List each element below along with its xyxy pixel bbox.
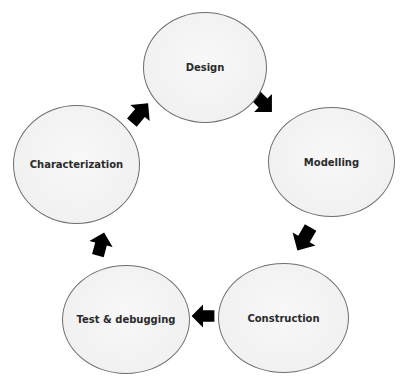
node-modelling: Modelling [268,107,395,217]
node-characterization: Characterization [13,105,140,224]
node-label: Test & debugging [77,314,176,325]
node-label: Characterization [30,159,124,170]
arrow-test-to-characterization-icon [86,229,115,258]
process-cycle-diagram: Design Modelling Construction Test & deb… [0,0,407,385]
arrow-characterization-to-design-icon [122,95,158,131]
arrow-construction-to-test-icon [192,305,215,328]
node-label: Construction [247,313,319,324]
node-design: Design [143,12,267,123]
node-construction: Construction [218,263,349,373]
node-label: Modelling [304,157,359,168]
node-label: Design [186,62,225,73]
node-test-debugging: Test & debugging [62,265,190,374]
arrow-modelling-to-construction-icon [286,221,322,257]
